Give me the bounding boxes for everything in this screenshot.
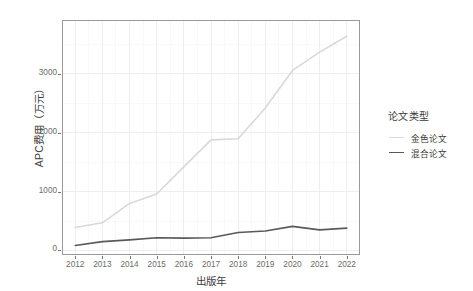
x-tick-mark xyxy=(102,256,103,259)
x-tick-mark xyxy=(347,256,348,259)
legend-entry-label: 混合论文 xyxy=(411,147,447,159)
x-tick-mark xyxy=(211,256,212,259)
x-tick-mark xyxy=(157,256,158,259)
x-tick-mark xyxy=(238,256,239,259)
x-tick-label: 2022 xyxy=(330,261,364,269)
x-tick-mark xyxy=(320,256,321,259)
y-tick-mark xyxy=(58,133,61,134)
x-tick-mark xyxy=(265,256,266,259)
legend: 论文类型 金色论文混合论文 xyxy=(388,108,470,160)
apc-cost-line-chart: APC费用（万元） 0100020003000 2012201320142015… xyxy=(0,0,473,291)
legend-entry-label: 金色论文 xyxy=(411,132,447,144)
y-tick-label: 1000 xyxy=(27,187,57,195)
x-tick-mark xyxy=(130,256,131,259)
legend-line-swatch-icon xyxy=(388,147,405,158)
y-tick-label: 3000 xyxy=(27,69,57,77)
x-tick-mark xyxy=(184,256,185,259)
x-axis-title: 出版年 xyxy=(62,273,360,288)
y-tick-mark xyxy=(58,250,61,251)
legend-title: 论文类型 xyxy=(388,108,470,123)
y-axis-ticks: 0100020003000 xyxy=(24,0,57,291)
x-tick-mark xyxy=(75,256,76,259)
legend-entry[interactable]: 金色论文 xyxy=(388,130,470,145)
legend-entries: 金色论文混合论文 xyxy=(388,130,470,160)
y-tick-label: 2000 xyxy=(27,128,57,136)
legend-line-swatch-icon xyxy=(388,132,405,143)
legend-entry[interactable]: 混合论文 xyxy=(388,145,470,160)
y-tick-mark xyxy=(58,74,61,75)
x-tick-mark xyxy=(292,256,293,259)
plot-svg xyxy=(63,21,359,254)
plot-panel xyxy=(62,20,360,255)
y-tick-mark xyxy=(58,192,61,193)
y-tick-label: 0 xyxy=(27,245,57,253)
